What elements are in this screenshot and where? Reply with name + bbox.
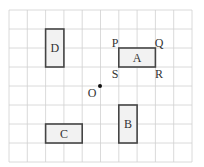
vertex-label-q: Q [155, 36, 164, 50]
shape-label: A [133, 51, 142, 65]
point-label: O [88, 86, 97, 100]
shape-label: D [50, 41, 59, 55]
shape-label: C [60, 127, 68, 141]
vertex-label-s: S [112, 67, 119, 81]
shape-d: D [46, 29, 64, 67]
point-dot [98, 84, 102, 88]
grid-diagram: ABCD PQSR O [0, 0, 204, 167]
shape-label: B [124, 117, 132, 131]
shape-c: C [46, 124, 83, 143]
shape-b: B [119, 105, 137, 143]
center-point: O [88, 84, 102, 100]
shape-a: A [119, 48, 156, 67]
vertex-label-r: R [155, 67, 163, 81]
vertex-label-p: P [112, 36, 119, 50]
